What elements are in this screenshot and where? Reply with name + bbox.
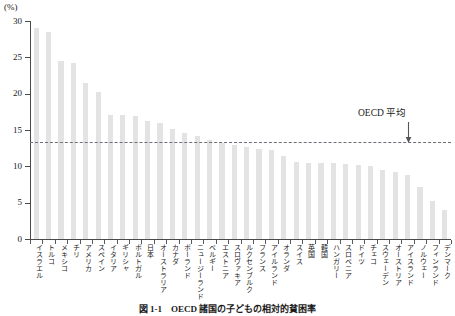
x-axis-category-label: アメリカ — [81, 244, 91, 272]
x-axis-category-label: フィンランド — [428, 244, 438, 286]
x-axis-category-label: スロヴァキア — [230, 244, 240, 286]
bar — [430, 201, 435, 239]
bar — [294, 162, 299, 239]
bar — [108, 115, 113, 239]
bar — [34, 28, 39, 239]
y-axis-tick-label: 5 — [0, 198, 22, 207]
plot-area — [30, 21, 451, 239]
down-arrow-icon — [404, 122, 413, 144]
bar — [232, 145, 237, 239]
bar — [368, 166, 373, 239]
x-axis-category-label: ギリシャ — [118, 244, 128, 272]
x-axis-category-label: ルクセンブルク — [242, 244, 252, 293]
x-axis-category-label: スペイン — [94, 244, 104, 272]
x-axis-category-label: ノルウェー — [416, 244, 426, 279]
bar — [442, 210, 447, 239]
bar — [207, 140, 212, 239]
y-axis-tick-label: 0 — [0, 235, 22, 244]
x-axis-category-label: スイス — [292, 244, 302, 265]
x-axis-category-label: ニュージーランド — [193, 244, 203, 300]
bar — [71, 63, 76, 239]
bar — [145, 121, 150, 239]
x-axis-category-label: イスラエル — [32, 244, 42, 279]
x-axis-category-label: 英国 — [304, 244, 314, 258]
bar — [83, 83, 88, 239]
bar — [46, 32, 51, 239]
x-axis-category-label: スウェーデン — [378, 244, 388, 286]
x-axis-category-label: ベルギー — [205, 244, 215, 272]
x-axis-category-label: 韓国 — [317, 244, 327, 258]
bar — [256, 149, 261, 239]
x-axis-category-label: デンマーク — [440, 244, 450, 279]
chart-figure: (%) 051015202530 OECD 平均 イスラエルトルコメキシコチリア… — [0, 0, 455, 316]
x-axis-category-label: トルコ — [44, 244, 54, 265]
bar — [120, 115, 125, 239]
x-axis-category-label: ドイツ — [354, 244, 364, 265]
bar — [380, 170, 385, 239]
bar — [356, 165, 361, 239]
bar — [281, 156, 286, 239]
x-axis-category-label: アイスランド — [403, 244, 413, 286]
y-axis-unit-label: (%) — [4, 2, 18, 12]
x-axis-category-label: イタリア — [106, 244, 116, 272]
x-axis-category-label: スロベニア — [341, 244, 351, 279]
x-axis-category-label: ハンガリー — [329, 244, 339, 279]
bar — [58, 61, 63, 239]
bar — [331, 163, 336, 239]
x-axis-category-label: ポルトガル — [131, 244, 141, 279]
x-axis-category-label: フランス — [255, 244, 265, 272]
x-axis-category-label: メキシコ — [57, 244, 67, 272]
bar — [269, 150, 274, 239]
oecd-average-line — [30, 142, 451, 143]
bar — [195, 136, 200, 239]
bar — [244, 147, 249, 239]
y-axis-tick-label: 30 — [0, 17, 22, 26]
x-axis-category-label: チェコ — [366, 244, 376, 265]
bar — [318, 163, 323, 239]
bar — [170, 129, 175, 239]
x-axis-category-label: チリ — [69, 244, 79, 258]
y-axis-tick-label: 20 — [0, 89, 22, 98]
bar — [96, 92, 101, 240]
x-axis-category-label: エストニア — [218, 244, 228, 279]
bar — [306, 163, 311, 239]
y-axis-tick-label: 15 — [0, 126, 22, 135]
bar — [343, 164, 348, 239]
x-axis-category-label: オランダ — [279, 244, 289, 272]
bar — [219, 143, 224, 239]
bar — [405, 175, 410, 239]
bar — [393, 172, 398, 239]
y-axis-tick-label: 10 — [0, 162, 22, 171]
bar — [182, 133, 187, 239]
x-axis-category-label: オーストリア — [391, 244, 401, 286]
x-axis-category-label: オーストラリア — [156, 244, 166, 293]
x-axis-category-label: カナダ — [168, 244, 178, 265]
y-axis-tick-label: 25 — [0, 53, 22, 62]
figure-caption: 図 1-1 OECD 諸国の子どもの相対的貧困率 — [0, 303, 455, 315]
x-axis-category-label: ポーランド — [180, 244, 190, 279]
x-axis-category-label: アイルランド — [267, 244, 277, 286]
x-axis-tick — [451, 240, 452, 244]
oecd-average-label: OECD 平均 — [358, 108, 406, 119]
bar — [133, 116, 138, 239]
bar — [157, 123, 162, 239]
bar — [417, 187, 422, 239]
x-axis-category-label: 日本 — [143, 244, 153, 258]
